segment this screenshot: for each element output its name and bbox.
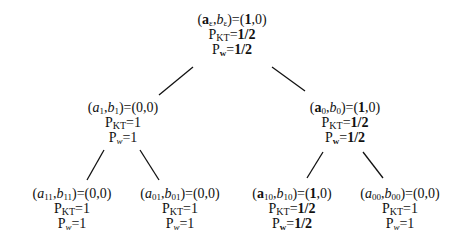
node-pair: (aε,bε)=(1,0) <box>182 12 282 27</box>
value-b: 0 <box>320 186 327 201</box>
node-pair: (a1,b1)=(0,0) <box>68 100 178 115</box>
tree-node-0: (a0,b0)=(1,0) PKT=1/2 Pw=1/2 <box>290 100 400 145</box>
node-pkt: PKT=1 <box>344 201 456 216</box>
pkt-value: 1/2 <box>298 201 316 216</box>
node-pw: Pw=1/2 <box>290 130 400 145</box>
value-b: 0 <box>100 186 107 201</box>
tree-node-10: (a10,b10)=(1,0) PKT=1/2 Pw=1/2 <box>236 186 348 231</box>
pw-value: 1 <box>407 216 414 231</box>
tree-node-01: (a01,b01)=(0,0) PKT=1 Pw=1 <box>124 186 236 231</box>
node-pair: (a00,b00)=(0,0) <box>344 186 456 201</box>
value-a: 1 <box>310 186 317 201</box>
pkt-value: 1 <box>191 201 198 216</box>
value-a: 0 <box>418 186 425 201</box>
a-subscript: 01 <box>152 192 161 202</box>
tree-node-11: (a11,b11)=(0,0) PKT=1 Pw=1 <box>16 186 128 231</box>
pkt-value: 1 <box>83 201 90 216</box>
node-pw: Pw=1/2 <box>236 216 348 231</box>
node-pkt: PKT=1/2 <box>236 201 348 216</box>
node-pw: Pw=1 <box>68 130 178 145</box>
a-subscript: 00 <box>372 192 381 202</box>
node-pw: Pw=1/2 <box>182 42 282 57</box>
edge-root-n1 <box>159 67 193 95</box>
node-pkt: PKT=1 <box>68 115 178 130</box>
node-pair: (a01,b01)=(0,0) <box>124 186 236 201</box>
node-pw: Pw=1 <box>124 216 236 231</box>
value-a: 0 <box>89 186 96 201</box>
node-pkt: PKT=1/2 <box>290 115 400 130</box>
pkt-value: 1/2 <box>351 115 369 130</box>
value-b: 0 <box>147 100 154 115</box>
node-pkt: PKT=1 <box>124 201 236 216</box>
edge-root-n0 <box>272 67 305 91</box>
value-b: 0 <box>369 100 376 115</box>
tree-node-1: (a1,b1)=(0,0) PKT=1 Pw=1 <box>68 100 178 145</box>
edge-n1-n01 <box>140 150 159 180</box>
edge-n0-n10 <box>307 152 323 178</box>
pw-value: 1 <box>130 130 137 145</box>
edge-n0-n00 <box>363 152 383 178</box>
node-pair: (a11,b11)=(0,0) <box>16 186 128 201</box>
pw-value: 1 <box>187 216 194 231</box>
pw-value: 1/2 <box>234 42 252 57</box>
value-b: 0 <box>428 186 435 201</box>
pkt-value: 1 <box>134 115 141 130</box>
tree-node-root: (aε,bε)=(1,0) PKT=1/2 Pw=1/2 <box>182 12 282 57</box>
pw-value: 1 <box>79 216 86 231</box>
value-a: 0 <box>136 100 143 115</box>
value-b: 0 <box>208 186 215 201</box>
pkt-value: 1 <box>411 201 418 216</box>
node-pair: (a10,b10)=(1,0) <box>236 186 348 201</box>
tree-node-00: (a00,b00)=(0,0) PKT=1 Pw=1 <box>344 186 456 231</box>
value-a: 1 <box>358 100 365 115</box>
a-subscript: 11 <box>44 192 53 202</box>
node-pw: Pw=1 <box>344 216 456 231</box>
value-a: 0 <box>198 186 205 201</box>
node-pair: (a0,b0)=(1,0) <box>290 100 400 115</box>
value-b: 0 <box>255 12 262 27</box>
node-pw: Pw=1 <box>16 216 128 231</box>
pw-value: 1/2 <box>347 130 365 145</box>
node-pkt: PKT=1 <box>16 201 128 216</box>
pkt-value: 1/2 <box>238 27 256 42</box>
edge-n1-n11 <box>87 150 104 180</box>
a-subscript: 1 <box>99 106 104 116</box>
pw-value: 1/2 <box>294 216 312 231</box>
value-a: 1 <box>244 12 251 27</box>
node-pkt: PKT=1/2 <box>182 27 282 42</box>
